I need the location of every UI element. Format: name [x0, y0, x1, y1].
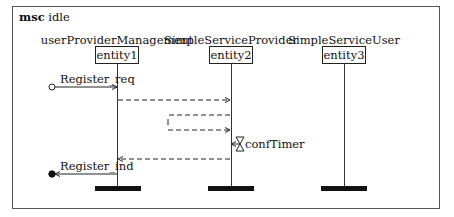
message-register-ind [49, 171, 117, 177]
message-self-loop-entity2 [168, 115, 230, 130]
timer-conftimer [231, 137, 244, 151]
open-circle-icon [49, 84, 55, 90]
filled-circle-icon [49, 171, 55, 177]
message-arrows [0, 0, 454, 217]
message-register-req [49, 84, 117, 90]
